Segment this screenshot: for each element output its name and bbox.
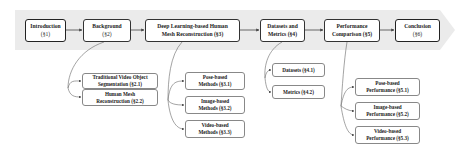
subsection-video-based-performance: Video-based Performance (§5.3) <box>355 126 420 144</box>
subsection-title-line2: Methods (§3.2) <box>198 105 231 112</box>
section-title: Conclusion <box>404 23 431 30</box>
section-number: (§1) <box>41 31 50 38</box>
section-performance-comparison: Performance Comparison (§5) <box>324 19 380 42</box>
subsection-metrics: Metrics (§4.2) <box>272 85 325 99</box>
section-conclusion: Conclusion (§6) <box>395 19 440 42</box>
subsection-pose-based-performance: Pose-based Performance (§5.1) <box>355 78 420 96</box>
subsection-title: Video-based <box>201 122 228 129</box>
subsection-title: Metrics (§4.2) <box>283 89 314 96</box>
subsection-title-line2: Segmentation (§2.1) <box>98 81 142 88</box>
subsection-title: Image-based <box>201 98 229 105</box>
section-number: (§2) <box>102 31 111 38</box>
section-title-line2: Metrics (§4) <box>268 31 297 38</box>
section-background: Background (§2) <box>83 19 131 42</box>
subsection-traditional-vos: Traditional Video Object Segmentation (§… <box>82 73 158 89</box>
subsection-title: Traditional Video Object <box>92 74 147 81</box>
subsection-title-line2: Reconstruction (§2.2) <box>96 98 144 105</box>
subsection-title: Pose-based <box>375 80 400 87</box>
subsection-title: Video-based <box>374 128 401 135</box>
section-title: Performance <box>336 23 367 30</box>
section-deep-learning-hmr: Deep Learning-based Human Mesh Reconstru… <box>145 19 240 42</box>
subsection-title: Human Mesh <box>105 91 135 98</box>
subsection-title-line2: Methods (§3.3) <box>198 129 231 136</box>
subsection-title-line2: Performance (§5.3) <box>366 135 409 142</box>
subsection-title: Image-based <box>373 104 401 111</box>
subsection-human-mesh-reconstruction: Human Mesh Reconstruction (§2.2) <box>82 89 158 106</box>
subsection-datasets: Datasets (§4.1) <box>272 63 325 77</box>
subsection-title-line2: Performance (§5.1) <box>366 87 409 94</box>
section-number: (§6) <box>413 31 422 38</box>
subsection-title: Datasets (§4.1) <box>282 67 315 74</box>
section-title-line2: Mesh Reconstruction (§3) <box>162 31 224 38</box>
section-title: Background <box>92 23 121 30</box>
subsection-title: Pose-based <box>203 74 228 81</box>
subsection-title-line2: Methods (§3.1) <box>198 81 231 88</box>
section-introduction: Introduction (§1) <box>25 19 66 42</box>
section-datasets-metrics: Datasets and Metrics (§4) <box>260 19 305 42</box>
subsection-pose-based-methods: Pose-based Methods (§3.1) <box>185 72 245 90</box>
subsection-video-based-methods: Video-based Methods (§3.3) <box>185 120 245 138</box>
subsection-image-based-methods: Image-based Methods (§3.2) <box>185 96 245 114</box>
subsection-title-line2: Performance (§5.2) <box>366 111 409 118</box>
section-title: Datasets and <box>267 23 298 30</box>
subsection-image-based-performance: Image-based Performance (§5.2) <box>355 102 420 120</box>
section-title-line2: Comparison (§5) <box>332 31 372 38</box>
section-title: Deep Learning-based Human <box>157 23 228 30</box>
section-title: Introduction <box>30 23 60 30</box>
